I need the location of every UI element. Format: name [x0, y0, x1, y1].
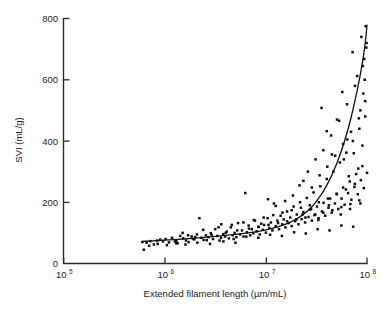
data-point	[346, 138, 349, 141]
data-point	[357, 167, 360, 170]
data-point	[326, 178, 329, 181]
data-point	[320, 107, 323, 110]
x-axis-title: Extended filament length (µm/mL)	[144, 288, 287, 299]
data-point	[279, 214, 282, 217]
data-point	[353, 152, 356, 155]
data-point	[289, 216, 292, 219]
data-point	[339, 161, 342, 164]
data-point	[247, 224, 250, 227]
data-point	[210, 233, 213, 236]
data-point	[354, 183, 357, 186]
data-point	[230, 226, 233, 229]
data-point	[356, 75, 359, 78]
data-point	[364, 115, 367, 118]
data-point	[348, 180, 351, 183]
data-point	[328, 229, 331, 232]
data-point	[259, 233, 262, 236]
data-point	[341, 91, 344, 94]
data-point	[267, 224, 270, 227]
data-point	[340, 197, 343, 200]
data-point	[276, 219, 279, 222]
data-point	[365, 46, 368, 49]
y-axis-title: SVI (mL/g)	[13, 117, 24, 162]
data-point	[242, 221, 245, 224]
data-point	[354, 85, 357, 88]
data-point	[330, 134, 333, 137]
data-point	[220, 223, 223, 226]
data-point	[307, 216, 310, 219]
data-point	[304, 221, 307, 224]
data-point	[266, 217, 269, 220]
data-point	[156, 243, 159, 246]
data-point	[258, 226, 261, 229]
data-point	[148, 244, 151, 247]
data-point	[364, 79, 367, 82]
data-point	[322, 149, 325, 152]
data-point	[351, 51, 354, 54]
x-tick-base-1e6: 10	[158, 269, 169, 280]
data-point	[260, 222, 263, 225]
data-point	[274, 205, 277, 208]
data-point	[251, 228, 254, 231]
data-point	[334, 202, 337, 205]
data-point	[313, 214, 316, 217]
data-point	[292, 194, 295, 197]
data-point	[166, 244, 169, 247]
data-point	[187, 234, 190, 237]
data-point	[206, 239, 209, 242]
data-point	[304, 216, 307, 219]
data-point	[241, 229, 244, 232]
x-tick-base-1e7: 10	[259, 269, 270, 280]
data-point	[307, 170, 310, 173]
data-point	[324, 214, 327, 217]
data-point	[298, 184, 301, 187]
data-point	[263, 224, 266, 227]
data-point	[330, 211, 333, 214]
y-tick-label-200: 200	[42, 197, 58, 208]
data-point	[363, 187, 366, 190]
data-point	[319, 185, 322, 188]
data-point	[187, 241, 190, 244]
data-point	[262, 216, 265, 219]
data-point	[340, 206, 343, 209]
data-point	[270, 221, 273, 224]
data-point	[281, 235, 284, 238]
data-point	[316, 205, 319, 208]
data-point	[196, 233, 199, 236]
data-point	[271, 229, 274, 232]
data-point	[358, 117, 361, 120]
data-point	[312, 191, 315, 194]
data-point	[300, 207, 303, 210]
data-point	[355, 173, 358, 176]
y-tick-label-0: 0	[53, 258, 58, 269]
data-point	[302, 211, 305, 214]
data-point	[236, 229, 239, 232]
data-point	[272, 214, 275, 217]
y-tick-label-600: 600	[42, 74, 58, 85]
x-tick-exp-1e6: 6	[171, 268, 175, 275]
data-point	[317, 219, 320, 222]
data-point	[343, 158, 346, 161]
data-point	[334, 154, 337, 157]
data-point	[345, 151, 348, 154]
data-point	[168, 241, 171, 244]
data-point	[175, 242, 178, 245]
data-point	[306, 197, 309, 200]
data-point	[311, 219, 314, 222]
data-point	[326, 130, 329, 133]
data-point	[217, 226, 220, 229]
data-point	[224, 232, 227, 235]
data-point	[190, 235, 193, 238]
data-point	[362, 92, 365, 95]
data-point	[257, 237, 260, 240]
data-point	[352, 140, 355, 143]
data-point	[244, 192, 247, 195]
data-point	[234, 241, 237, 244]
data-point	[349, 208, 352, 211]
data-point	[357, 193, 360, 196]
data-point	[292, 205, 295, 208]
data-point	[322, 211, 325, 214]
data-point	[340, 213, 343, 216]
x-tick-exp-1e7: 7	[272, 268, 276, 275]
data-point	[361, 144, 364, 147]
